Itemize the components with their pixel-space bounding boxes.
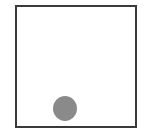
canvas-root [0, 0, 146, 133]
frame-interior-area[interactable] [17, 7, 135, 126]
gray-circle-shape[interactable] [53, 96, 77, 121]
bordered-square-frame[interactable] [15, 5, 137, 128]
